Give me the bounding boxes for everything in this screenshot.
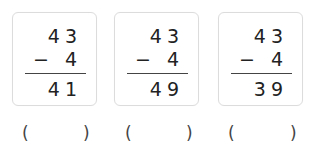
result: 39 [254,80,288,99]
problem-card-3: 43 − 4 39 [218,12,303,106]
answer-paren-open-3: ( [228,125,235,142]
answer-paren-close-3: ) [290,125,297,142]
minus-sign: − [135,50,151,69]
result: 49 [150,80,184,99]
minus-sign: − [33,50,49,69]
minuend: 43 [254,27,288,46]
answer-blank-3[interactable] [238,122,288,144]
answer-paren-open-2: ( [125,125,132,142]
answer-blank-1[interactable] [32,122,82,144]
result: 41 [48,80,82,99]
subtrahend: 4 [65,50,82,69]
problem-card-2: 43 − 4 49 [114,12,199,106]
minuend: 43 [150,27,184,46]
answer-paren-open-1: ( [22,125,29,142]
sum-line [127,73,188,74]
answer-paren-close-2: ) [186,125,193,142]
subtrahend: 4 [167,50,184,69]
problem-card-1: 43 − 4 41 [12,12,97,106]
answer-paren-close-1: ) [83,125,90,142]
sum-line [231,73,292,74]
minuend: 43 [48,27,82,46]
sum-line [25,73,86,74]
subtrahend: 4 [271,50,288,69]
minus-sign: − [239,50,255,69]
answer-blank-2[interactable] [135,122,185,144]
